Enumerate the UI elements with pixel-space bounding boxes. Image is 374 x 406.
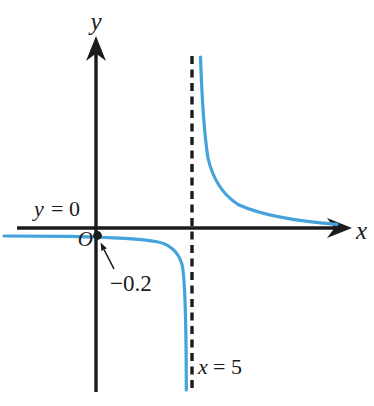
y-axis-label: y: [87, 8, 102, 35]
y-intercept-dot: [93, 231, 102, 240]
vertical-asymptote-label-var: x: [197, 354, 208, 379]
intercept-annotation-arrowhead-icon: [101, 243, 107, 252]
figure-page: y x O y = 0 x = 5 −0.2: [0, 0, 374, 406]
horizontal-asymptote-label-eq: = 0: [51, 196, 80, 221]
vertical-asymptote-label-eq: = 5: [213, 354, 242, 379]
y-intercept-label: −0.2: [110, 271, 152, 296]
horizontal-asymptote-label-var: y: [32, 196, 44, 221]
origin-label: O: [78, 227, 93, 251]
intercept-annotation-arrow: [104, 250, 114, 270]
x-axis-label: x: [355, 217, 367, 244]
function-graph: y x O y = 0 x = 5 −0.2: [0, 0, 374, 406]
curve-right-branch: [201, 57, 338, 224]
